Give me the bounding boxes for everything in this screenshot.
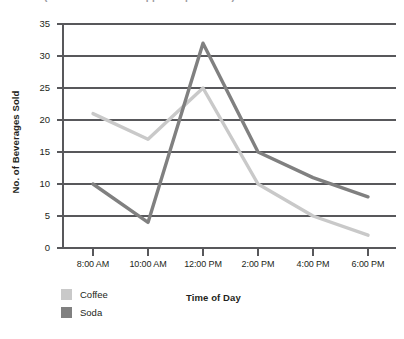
y-tick-label-0: 0	[28, 242, 50, 253]
x-tick-label-4pm: 4:00 PM	[283, 259, 343, 269]
chart-legend: Coffee Soda	[61, 286, 108, 322]
legend-label-coffee: Coffee	[80, 289, 108, 300]
y-tick-label-20: 20	[28, 114, 50, 125]
y-tick-label-10: 10	[28, 178, 50, 189]
x-tick-label-2pm: 2:00 PM	[228, 259, 288, 269]
y-axis-ticks	[57, 24, 63, 248]
y-tick-label-35: 35	[28, 18, 50, 29]
x-tick-label-6pm: 6:00 PM	[338, 259, 398, 269]
x-tick-label-12pm: 12:00 PM	[171, 259, 235, 269]
legend-label-soda: Soda	[80, 307, 102, 318]
y-tick-label-25: 25	[28, 82, 50, 93]
legend-item-coffee: Coffee	[61, 286, 108, 303]
y-tick-label-5: 5	[28, 210, 50, 221]
line-chart: (descenders of a cropped caption line) N…	[0, 0, 404, 339]
legend-swatch-coffee	[61, 289, 72, 300]
x-axis-title: Time of Day	[186, 292, 241, 303]
y-tick-label-30: 30	[28, 50, 50, 61]
legend-item-soda: Soda	[61, 304, 108, 321]
gridlines	[63, 24, 396, 216]
x-tick-label-8am: 8:00 AM	[63, 259, 123, 269]
x-axis-ticks	[93, 248, 368, 256]
y-tick-label-15: 15	[28, 146, 50, 157]
legend-swatch-soda	[61, 307, 72, 318]
